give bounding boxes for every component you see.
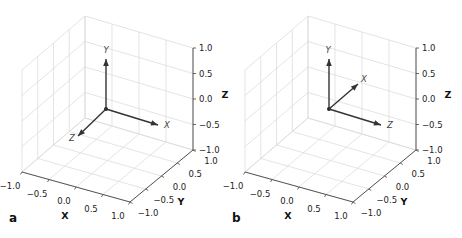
y-vector-label: Y — [103, 45, 109, 55]
y-vector-head — [103, 59, 109, 66]
x-tick-label: −0.5 — [27, 189, 48, 199]
z-tick-label: −0.5 — [422, 120, 443, 130]
x-tick-label: 1.0 — [334, 211, 348, 221]
x-tick-label: 1.0 — [111, 211, 125, 221]
figure: −1.0−0.50.00.51.0−1.0−0.50.00.51.0−1.0−0… — [0, 0, 462, 238]
z-axis-title: Z — [445, 89, 452, 100]
y-tick-label: 0.0 — [173, 182, 187, 192]
y-tick-label: 1.0 — [427, 156, 441, 166]
panel-label: a — [9, 211, 17, 225]
x-tick-label: 0.5 — [307, 204, 321, 214]
y-axis-title: Y — [400, 196, 408, 207]
z-tick-label: 0.0 — [422, 94, 436, 104]
y-tick-label: 0.5 — [188, 169, 202, 179]
y-tick-label: −0.5 — [376, 195, 397, 205]
y-vector-head — [326, 59, 332, 66]
z-tick-label: −1.0 — [199, 145, 220, 155]
x-vector-label: X — [360, 74, 367, 84]
z-tick-label: 0.5 — [199, 69, 213, 79]
x-axis-title: X — [284, 210, 292, 221]
y-tick-label: −0.5 — [153, 195, 174, 205]
x-tick-label: 0.0 — [280, 196, 294, 206]
basis-vectors: YXZ — [325, 45, 393, 130]
x-vector-head — [150, 120, 158, 125]
z-vector — [329, 109, 381, 125]
x-tick-label: −1.0 — [223, 181, 244, 191]
z-tick-label: 0.5 — [422, 69, 436, 79]
x-axis-title: X — [61, 210, 69, 221]
panel-b: −1.0−0.50.00.51.0−1.0−0.50.00.51.0−1.0−0… — [223, 16, 452, 225]
axes: −1.0−0.50.00.51.0−1.0−0.50.00.51.0−1.0−0… — [223, 43, 443, 221]
y-tick-label: −1.0 — [361, 208, 382, 218]
x-tick-label: −1.0 — [0, 181, 20, 191]
y-axis-title: Y — [177, 196, 185, 207]
z-vector-label: Z — [386, 120, 393, 130]
panel-a: −1.0−0.50.00.51.0−1.0−0.50.00.51.0−1.0−0… — [0, 16, 229, 225]
y-vector-label: Y — [325, 45, 331, 55]
z-vector-head — [373, 120, 381, 125]
panel-label: b — [232, 211, 241, 225]
y-tick-label: 1.0 — [204, 156, 218, 166]
x-vector-label: X — [163, 120, 170, 130]
y-tick-label: 0.0 — [396, 182, 410, 192]
z-tick-label: 1.0 — [199, 43, 213, 53]
y-tick-label: 0.5 — [411, 169, 425, 179]
z-axis-title: Z — [222, 89, 229, 100]
x-tick-label: 0.5 — [84, 204, 98, 214]
z-tick-label: −0.5 — [199, 120, 220, 130]
z-tick-label: 0.0 — [199, 94, 213, 104]
z-tick-label: 1.0 — [422, 43, 436, 53]
z-vector-label: Z — [68, 133, 75, 143]
x-tick-label: 0.0 — [57, 196, 71, 206]
y-tick-label: −1.0 — [138, 208, 159, 218]
axes: −1.0−0.50.00.51.0−1.0−0.50.00.51.0−1.0−0… — [0, 43, 220, 221]
z-tick-label: −1.0 — [422, 145, 443, 155]
x-tick-label: −0.5 — [250, 189, 271, 199]
x-vector — [106, 109, 158, 125]
